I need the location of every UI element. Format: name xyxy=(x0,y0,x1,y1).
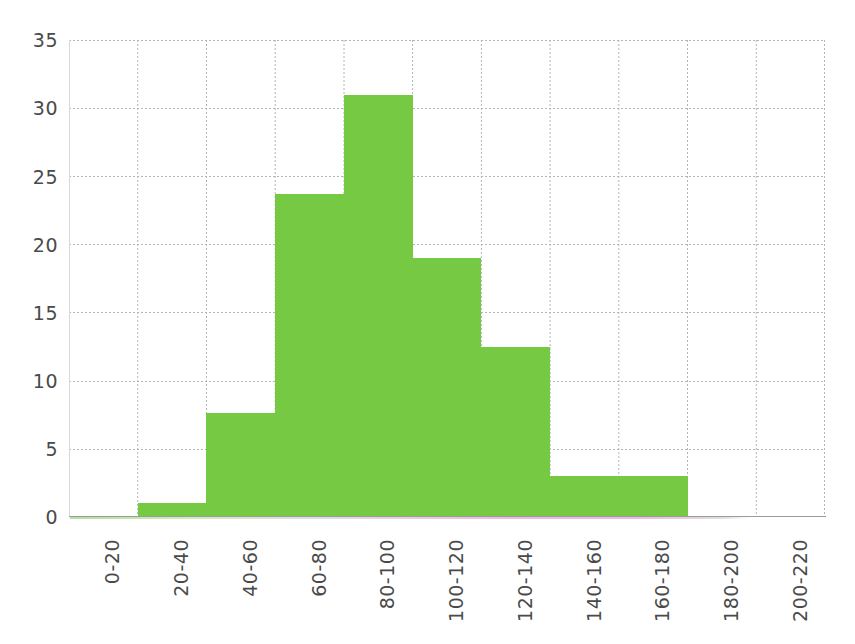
y-axis-line xyxy=(69,40,70,517)
histogram-chart: 35 30 25 20 15 10 5 0 xyxy=(0,0,855,644)
x-tick-label: 160-180 xyxy=(653,539,672,622)
x-tick-label: 60-80 xyxy=(310,539,329,597)
x-axis-tick-labels: 0-20 20-40 40-60 60-80 80-100 100-120 12… xyxy=(69,517,825,644)
y-tick-label: 15 xyxy=(12,304,58,323)
bar-80-100 xyxy=(344,95,413,517)
y-tick-label: 30 xyxy=(12,99,58,118)
bar-60-80 xyxy=(275,194,344,517)
bar-120-140 xyxy=(481,347,550,517)
y-tick-label: 20 xyxy=(12,236,58,255)
x-tick-label: 100-120 xyxy=(447,539,466,622)
plot-area xyxy=(69,40,825,517)
x-tick-label: 140-160 xyxy=(585,539,604,622)
y-tick-label: 5 xyxy=(12,440,58,459)
y-axis-tick-labels: 35 30 25 20 15 10 5 0 xyxy=(0,0,58,644)
x-tick-label: 120-140 xyxy=(516,539,535,622)
y-tick-label: 0 xyxy=(12,508,58,527)
x-tick-label: 40-60 xyxy=(241,539,260,597)
x-tick-label: 20-40 xyxy=(172,539,191,597)
x-tick-label: 180-200 xyxy=(722,539,741,622)
bar-160-180 xyxy=(619,476,688,517)
bar-20-40 xyxy=(138,503,207,517)
x-tick-label: 0-20 xyxy=(103,539,122,584)
y-tick-label: 35 xyxy=(12,31,58,50)
y-tick-label: 25 xyxy=(12,168,58,187)
bar-140-160 xyxy=(550,476,619,517)
bar-40-60 xyxy=(206,413,275,517)
bar-100-120 xyxy=(413,258,482,517)
x-tick-label: 80-100 xyxy=(378,539,397,609)
bars-layer xyxy=(69,40,825,517)
y-tick-label: 10 xyxy=(12,372,58,391)
x-tick-label: 200-220 xyxy=(791,539,810,622)
